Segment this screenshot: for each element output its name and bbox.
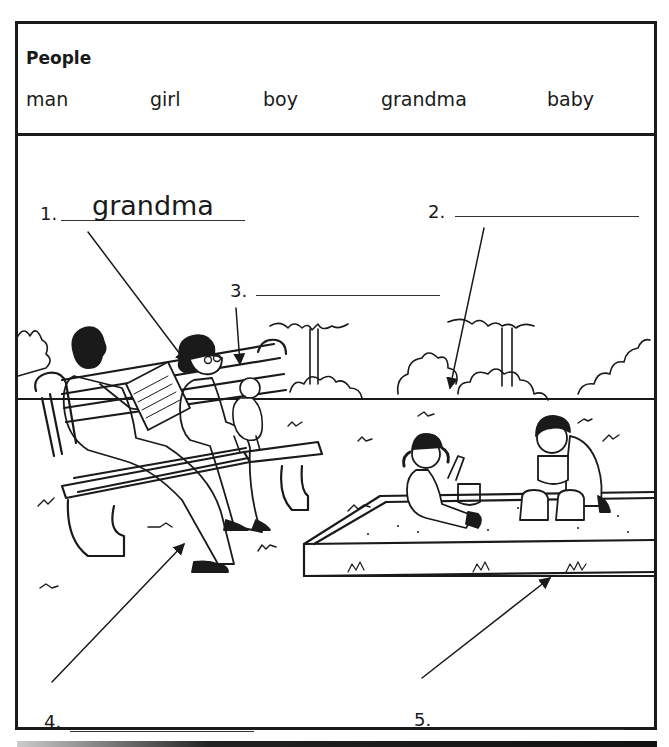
question-2-blank[interactable] — [455, 216, 639, 217]
boy-icon — [520, 416, 610, 520]
worksheet-frame: People man girl boy grandma baby — [15, 21, 657, 730]
question-3-number: 3. — [230, 280, 247, 301]
arrows — [52, 228, 550, 682]
word-bank-word: girl — [150, 88, 180, 110]
word-bank-word: grandma — [381, 88, 467, 110]
question-5-number: 5. — [414, 709, 431, 730]
question-5-blank[interactable] — [440, 729, 624, 730]
word-bank-word: boy — [263, 88, 298, 110]
bench-icon — [35, 340, 322, 556]
park-illustration — [18, 136, 654, 727]
question-3-blank[interactable] — [256, 295, 440, 296]
girl-icon — [404, 434, 481, 528]
word-bank-word: man — [26, 88, 68, 110]
park-scene: 1. grandma 2. 3. 4. 5. — [18, 136, 654, 727]
question-1-answer[interactable]: grandma — [92, 192, 214, 219]
word-bank-title: People — [26, 48, 91, 68]
sand-dots — [367, 507, 629, 535]
page-edge-bar — [17, 741, 657, 747]
question-4-blank[interactable] — [70, 731, 254, 732]
trees-icon — [18, 319, 650, 400]
question-2-number: 2. — [428, 201, 445, 222]
word-bank: People man girl boy grandma baby — [18, 24, 654, 136]
question-4-number: 4. — [44, 711, 61, 732]
question-1-number: 1. — [40, 203, 57, 224]
word-bank-word: baby — [547, 88, 594, 110]
